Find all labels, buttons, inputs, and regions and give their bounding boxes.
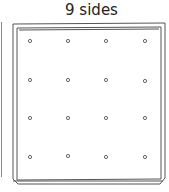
- board-outer-frame: [13, 23, 165, 184]
- peg: [66, 78, 69, 81]
- geoboard: [0, 0, 169, 192]
- peg: [28, 39, 31, 42]
- peg: [66, 116, 69, 119]
- peg: [143, 155, 146, 158]
- peg: [28, 116, 31, 119]
- peg: [143, 116, 146, 119]
- peg: [143, 39, 146, 42]
- peg: [28, 155, 31, 158]
- peg: [104, 78, 107, 81]
- peg: [66, 154, 69, 157]
- peg: [104, 39, 107, 42]
- peg: [104, 116, 107, 119]
- peg: [28, 78, 31, 81]
- peg: [143, 79, 146, 82]
- board-inner-frame: [17, 27, 161, 180]
- peg: [104, 155, 107, 158]
- peg: [66, 39, 69, 42]
- peg-grid: [28, 39, 146, 158]
